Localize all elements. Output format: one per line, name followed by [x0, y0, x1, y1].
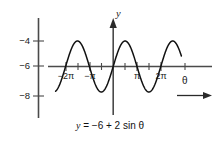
sine-graph-figure: −4 −6 −8 −2π −π π 2π y θ y = −6 + 2 sin … — [0, 0, 220, 141]
x-axis-label: θ — [182, 76, 188, 86]
y-tick-label-minus8: −8 — [6, 91, 30, 101]
equation-theta: θ — [139, 120, 145, 131]
y-axis-label: y — [116, 9, 121, 20]
y-tick-label-minus6: −6 — [6, 61, 30, 71]
theta-arrow-head-icon — [203, 92, 212, 99]
x-tick-label-2pi: 2π — [150, 72, 172, 81]
y-tick-label-minus4: −4 — [6, 36, 30, 46]
x-tick-label-pi: π — [128, 72, 146, 81]
x-tick-label-minus-pi: −π — [78, 72, 102, 81]
equation-rhs: = −6 + 2 sin — [80, 120, 138, 131]
theta-direction-arrow — [177, 92, 212, 99]
equation-caption: y = −6 + 2 sin θ — [0, 120, 220, 131]
y-scale-axis — [33, 18, 44, 118]
x-tick-label-minus-2pi: −2π — [53, 72, 79, 81]
y-axis-arrowhead-icon — [110, 18, 117, 28]
x-axis — [48, 62, 212, 71]
